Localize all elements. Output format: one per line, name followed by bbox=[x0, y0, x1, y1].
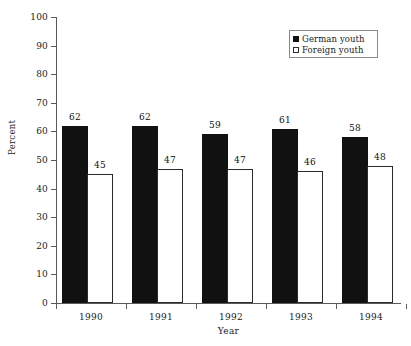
y-axis-tick-label: 70 bbox=[8, 99, 48, 108]
x-axis-tick-label: 1992 bbox=[201, 312, 261, 322]
filled-square-icon bbox=[293, 36, 299, 42]
bar-value-label: 48 bbox=[363, 153, 397, 162]
bar-value-label: 61 bbox=[268, 116, 302, 125]
x-axis-tick bbox=[126, 304, 127, 309]
y-axis-line bbox=[56, 17, 57, 304]
bar-foreign-youth-1994 bbox=[367, 166, 393, 303]
bar-foreign-youth-1993 bbox=[297, 171, 323, 303]
x-axis-tick-label: 1990 bbox=[61, 312, 121, 322]
bar-value-label: 58 bbox=[338, 124, 372, 133]
bar-foreign-youth-1992 bbox=[227, 169, 253, 303]
y-axis-tick-label: 0 bbox=[8, 299, 48, 308]
y-axis-tick bbox=[51, 246, 56, 247]
legend-label: German youth bbox=[302, 34, 365, 44]
y-axis-tick bbox=[51, 103, 56, 104]
x-axis-tick-label: 1991 bbox=[131, 312, 191, 322]
bar-value-label: 59 bbox=[198, 121, 232, 130]
y-axis-tick-label: 20 bbox=[8, 242, 48, 251]
y-axis-title: Percent bbox=[7, 135, 17, 155]
bar-german-youth-1993 bbox=[272, 129, 298, 303]
y-axis-tick-label: 50 bbox=[8, 156, 48, 165]
bar-value-label: 62 bbox=[58, 113, 92, 122]
x-axis-tick bbox=[56, 304, 57, 309]
y-axis-tick-label: 40 bbox=[8, 185, 48, 194]
y-axis-tick bbox=[51, 74, 56, 75]
legend-label: Foreign youth bbox=[302, 45, 364, 55]
x-axis-tick bbox=[336, 304, 337, 309]
legend: German youth Foreign youth bbox=[289, 30, 378, 58]
x-axis-tick bbox=[266, 304, 267, 309]
y-axis-tick bbox=[51, 189, 56, 190]
y-axis-tick bbox=[51, 46, 56, 47]
y-axis-tick-label: 30 bbox=[8, 213, 48, 222]
bar-foreign-youth-1990 bbox=[87, 174, 113, 303]
bar-chart: 0102030405060708090100 19901991199219931… bbox=[0, 0, 411, 346]
legend-item-german-youth: German youth bbox=[293, 33, 374, 44]
bar-value-label: 47 bbox=[153, 156, 187, 165]
x-axis-tick bbox=[406, 304, 407, 309]
y-axis-tick-label: 90 bbox=[8, 42, 48, 51]
y-axis-tick-label: 100 bbox=[8, 13, 48, 22]
x-axis-tick bbox=[196, 304, 197, 309]
y-axis-tick bbox=[51, 131, 56, 132]
x-axis-tick-label: 1994 bbox=[341, 312, 401, 322]
y-axis-tick bbox=[51, 17, 56, 18]
bar-value-label: 46 bbox=[293, 158, 327, 167]
legend-item-foreign-youth: Foreign youth bbox=[293, 44, 374, 55]
y-axis-tick-label: 80 bbox=[8, 70, 48, 79]
open-square-icon bbox=[293, 47, 299, 53]
x-axis-line bbox=[56, 303, 401, 304]
bar-german-youth-1991 bbox=[132, 126, 158, 303]
y-axis-tick bbox=[51, 160, 56, 161]
y-axis-tick bbox=[51, 217, 56, 218]
x-axis-tick-label: 1993 bbox=[271, 312, 331, 322]
x-axis-title: Year bbox=[56, 326, 401, 336]
y-axis-tick bbox=[51, 274, 56, 275]
y-axis-tick-label: 10 bbox=[8, 270, 48, 279]
bar-value-label: 47 bbox=[223, 156, 257, 165]
bar-german-youth-1990 bbox=[62, 126, 88, 303]
bar-value-label: 45 bbox=[83, 161, 117, 170]
bar-foreign-youth-1991 bbox=[157, 169, 183, 303]
bar-value-label: 62 bbox=[128, 113, 162, 122]
bar-german-youth-1994 bbox=[342, 137, 368, 303]
